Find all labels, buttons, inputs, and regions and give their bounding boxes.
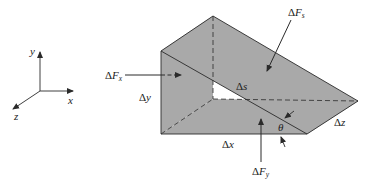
x-axis-label: x: [67, 94, 73, 106]
z-axis: [13, 91, 40, 109]
force-fs-label: ΔFs: [288, 6, 305, 20]
delta-s-label: Δs: [236, 80, 247, 92]
delta-y-label: Δy: [139, 91, 151, 103]
z-axis-label: z: [13, 110, 19, 122]
theta-pointer-bottom: [281, 137, 285, 147]
y-axis-label: y: [29, 45, 35, 57]
force-fx-label: ΔFx: [105, 69, 123, 83]
theta-label: θ: [278, 121, 284, 133]
delta-z-label: Δz: [334, 116, 346, 128]
fluid-wedge-diagram: y x z ΔFx ΔFs ΔFy: [0, 0, 373, 184]
wedge-element: [161, 16, 358, 134]
coordinate-axes: y x z: [13, 45, 73, 122]
force-fy-label: ΔFy: [252, 165, 270, 179]
delta-x-label: Δx: [222, 138, 234, 150]
